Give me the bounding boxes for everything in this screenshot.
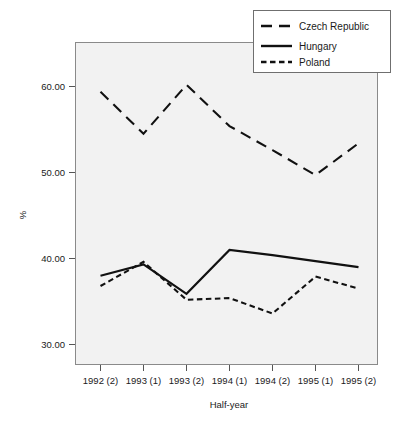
plot-area	[76, 43, 378, 365]
x-tick-label: 1994 (2)	[255, 375, 290, 386]
x-tick-label: 1993 (1)	[126, 375, 161, 386]
chart-canvas: 60.00 50.00 40.00 30.00 % 1992 (2) 1993 …	[0, 0, 406, 422]
x-axis-tick-labels: 1992 (2) 1993 (1) 1993 (2) 1994 (1) 1994…	[83, 375, 376, 386]
x-axis-title: Half-year	[210, 399, 249, 410]
y-axis-tick-labels: 60.00 50.00 40.00 30.00	[41, 81, 65, 350]
chart-legend: Czech Republic Hungary Poland	[254, 11, 391, 73]
y-tick-label: 40.00	[41, 253, 65, 264]
x-tick-label: 1993 (2)	[169, 375, 204, 386]
legend-label-czech-republic: Czech Republic	[299, 21, 369, 32]
y-tick-label: 50.00	[41, 167, 65, 178]
x-tick-label: 1995 (1)	[298, 375, 333, 386]
legend-label-hungary: Hungary	[299, 41, 337, 52]
legend-label-poland: Poland	[299, 57, 330, 68]
y-axis-ticks	[69, 87, 75, 345]
y-tick-label: 60.00	[41, 81, 65, 92]
x-tick-label: 1992 (2)	[83, 375, 118, 386]
x-axis-ticks	[101, 365, 359, 371]
x-tick-label: 1995 (2)	[341, 375, 376, 386]
y-tick-label: 30.00	[41, 339, 65, 350]
y-axis-title: %	[17, 210, 28, 219]
line-chart: 60.00 50.00 40.00 30.00 % 1992 (2) 1993 …	[0, 0, 406, 422]
x-tick-label: 1994 (1)	[212, 375, 247, 386]
